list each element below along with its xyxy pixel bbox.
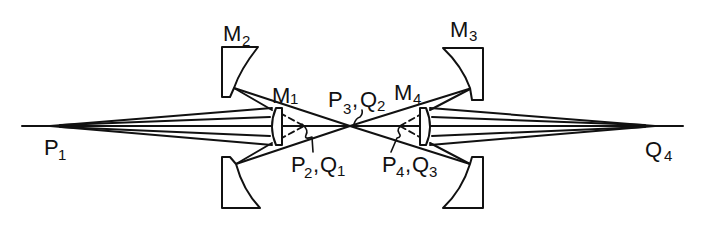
label-m4: M 4 — [394, 80, 421, 107]
svg-text:,: , — [352, 87, 358, 112]
mirror-m4 — [420, 108, 430, 145]
svg-text:2: 2 — [377, 97, 385, 114]
svg-text:3: 3 — [429, 163, 437, 180]
svg-text:P: P — [382, 152, 397, 177]
svg-text:1: 1 — [337, 162, 345, 179]
svg-text:,: , — [405, 152, 411, 177]
svg-text:4: 4 — [664, 147, 672, 164]
svg-text:Q: Q — [320, 152, 337, 177]
svg-text:1: 1 — [290, 90, 298, 107]
svg-text:4: 4 — [413, 90, 421, 107]
label-p4q3: P 4 , Q 3 — [382, 152, 437, 180]
svg-text:P: P — [44, 135, 59, 160]
svg-text:M: M — [394, 80, 412, 105]
label-m1: M 1 — [272, 83, 298, 108]
optical-diagram: M 2 M 1 P 3 , Q 2 M 4 M 3 P 1 P 2 , Q 1 … — [0, 0, 705, 228]
mirror-m1 — [272, 108, 282, 145]
label-m2: M 2 — [223, 21, 250, 49]
svg-text:1: 1 — [58, 146, 66, 163]
label-p2q1: P 2 , Q 1 — [291, 152, 345, 181]
label-p1: P 1 — [44, 135, 66, 163]
svg-text:,: , — [313, 152, 319, 177]
svg-text:4: 4 — [396, 163, 404, 180]
svg-text:3: 3 — [343, 100, 351, 117]
svg-text:M: M — [272, 83, 290, 108]
svg-text:Q: Q — [360, 87, 377, 112]
label-p3q2: P 3 , Q 2 — [328, 87, 385, 117]
svg-text:2: 2 — [242, 32, 250, 49]
svg-text:P: P — [328, 87, 343, 112]
svg-text:3: 3 — [469, 27, 477, 44]
mirror-m2-lower — [222, 157, 260, 208]
svg-text:M: M — [223, 21, 241, 46]
mirror-m3-lower — [443, 157, 483, 208]
label-q4: Q 4 — [645, 137, 672, 164]
svg-text:M: M — [450, 17, 468, 42]
label-m3: M 3 — [450, 17, 477, 44]
svg-text:Q: Q — [645, 137, 662, 162]
svg-text:Q: Q — [412, 152, 429, 177]
leader-p4q3 — [391, 125, 403, 152]
svg-text:2: 2 — [304, 164, 312, 181]
leader-p2q1 — [302, 124, 313, 152]
